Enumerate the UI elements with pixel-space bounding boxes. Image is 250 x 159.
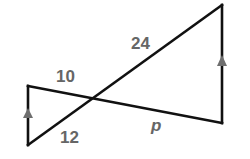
label-segment-10: 10 [56,67,75,86]
parallel-arrow-icon-right [217,55,227,66]
transversal-descending [28,86,222,123]
similar-triangles-diagram: 10 24 12 p [0,0,250,159]
label-segment-p: p [150,116,161,135]
parallel-arrow-icon-left [23,108,33,118]
label-segment-12: 12 [60,128,79,147]
label-segment-24: 24 [131,34,150,53]
